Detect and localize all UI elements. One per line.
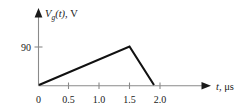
x-axis-label: t, μs — [216, 81, 234, 92]
chart-canvas: 90 0 0.5 1.0 1.5 2.0 Vg(t), V t, μs — [0, 0, 248, 112]
x-tick-label-0point5: 0.5 — [62, 94, 75, 105]
waveform-figure: 90 0 0.5 1.0 1.5 2.0 Vg(t), V t, μs — [0, 0, 248, 112]
x-tick-label-1point0: 1.0 — [93, 94, 106, 105]
y-axis-arrow-icon — [35, 8, 43, 18]
x-tick-label-0: 0 — [36, 94, 41, 105]
x-axis-label-unit: μs — [224, 81, 234, 92]
y-tick-label-90: 90 — [21, 42, 31, 53]
y-axis-label-unit: V — [70, 8, 78, 19]
y-axis-label-argument: (t) — [55, 8, 65, 20]
y-axis-label: Vg(t), V — [45, 8, 78, 22]
waveform-trace — [39, 47, 154, 86]
x-axis-arrow-icon — [202, 82, 212, 90]
x-tick-label-2point0: 2.0 — [154, 94, 167, 105]
x-tick-label-1point5: 1.5 — [123, 94, 136, 105]
